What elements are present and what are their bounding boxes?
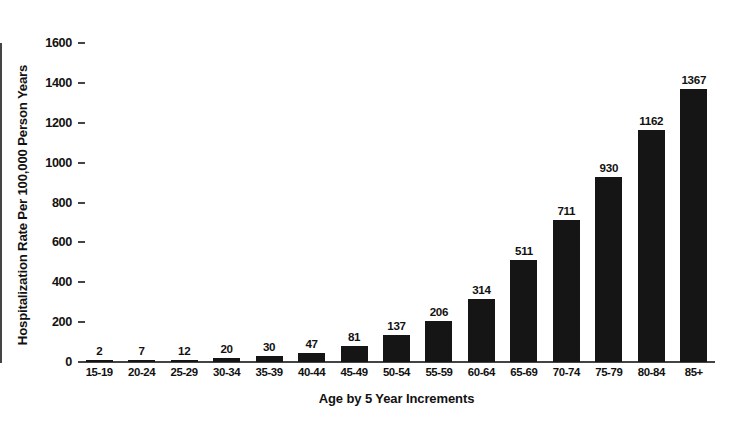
x-axis-title: Age by 5 Year Increments (78, 391, 715, 406)
y-axis-tick-label-text: 1000 (28, 155, 72, 171)
y-axis-tick-label: 600 (22, 234, 72, 250)
y-axis-tick-label: 200 (22, 314, 72, 330)
y-axis-tick-label: 1200 (22, 115, 72, 131)
y-axis-tick-label: 1400 (22, 75, 72, 91)
y-axis-tick-label: 1000 (22, 155, 72, 171)
y-axis-tick-label-text: 1400 (28, 75, 72, 91)
y-axis-tick-label-text: 0 (28, 354, 72, 370)
y-axis-tick-label-text: 400 (28, 274, 72, 290)
y-axis-tick-label: 800 (22, 195, 72, 211)
x-axis-ticks: 15-1920-2425-2930-3435-3940-4445-4950-54… (78, 0, 739, 423)
y-axis-tick-label-text: 600 (28, 234, 72, 250)
y-axis-tick-label-text: 800 (28, 195, 72, 211)
x-axis-tick-label: 85+ (668, 366, 720, 378)
y-axis-tick-label: 400 (22, 274, 72, 290)
y-axis-tick-label-text: 1200 (28, 115, 72, 131)
y-axis-tick-label-text: 200 (28, 314, 72, 330)
y-axis-tick-label-text: 1600 (28, 35, 72, 51)
y-axis-tick-label: 0 (22, 354, 72, 370)
chart-figure: Hospitalization Rate Per 100,000 Person … (0, 0, 739, 423)
y-axis-tick-label: 1600 (22, 35, 72, 51)
